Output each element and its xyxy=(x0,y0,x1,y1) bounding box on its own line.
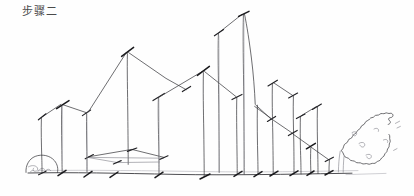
building-5-tower-left xyxy=(214,15,241,173)
building-4-mid-gable xyxy=(159,66,242,176)
foreground-roof-plane xyxy=(85,148,168,164)
building-3-tall-gable xyxy=(88,47,190,174)
building-8-stepped-lower xyxy=(296,104,321,174)
construction-guide-lines xyxy=(62,18,244,174)
architectural-sketch-canvas xyxy=(0,0,414,196)
building-9-small-right xyxy=(311,147,333,173)
building-1-low-left xyxy=(38,104,60,172)
right-tree xyxy=(338,113,400,173)
building-2-gable-small xyxy=(57,101,91,173)
building-7-stepped-right xyxy=(268,80,298,174)
sketch-page: 步骤二 xyxy=(0,0,414,196)
